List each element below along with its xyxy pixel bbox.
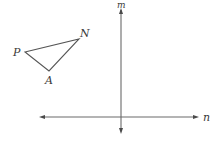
axis-m-arrow-down-icon (119, 128, 123, 134)
axis-n-arrow-right-icon (193, 115, 199, 119)
triangle-pna: P N A (12, 27, 90, 87)
axis-m-label: m (117, 0, 126, 10)
axis-n: n (39, 111, 210, 124)
axis-n-arrow-left-icon (39, 115, 45, 119)
vertex-label-p: P (12, 46, 21, 59)
axis-n-label: n (203, 111, 210, 124)
axis-m: m (117, 0, 126, 134)
triangle-outline (25, 39, 79, 71)
vertex-label-a: A (44, 74, 53, 87)
vertex-label-n: N (79, 27, 90, 40)
diagram-canvas: m n P N A (0, 0, 217, 143)
